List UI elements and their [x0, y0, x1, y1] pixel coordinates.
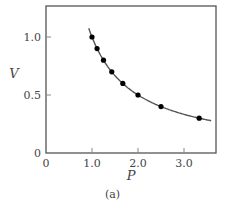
data-point: [101, 58, 106, 63]
data-point: [89, 34, 94, 39]
x-tick-label: 3.0: [175, 157, 193, 170]
data-point: [197, 116, 202, 121]
data-point: [135, 92, 140, 97]
data-point: [109, 69, 114, 74]
axis-ticks: [46, 37, 184, 153]
x-tick-label: 1.0: [83, 157, 101, 170]
plot-frame: [46, 6, 216, 153]
x-axis-label: P: [126, 168, 136, 183]
y-tick-label: 1.0: [24, 31, 42, 44]
fit-curve: [89, 28, 211, 120]
data-point: [94, 46, 99, 51]
data-point: [158, 104, 163, 109]
y-tick-label: 0: [34, 147, 41, 160]
chart-area: 01.02.03.000.51.0 P V: [0, 0, 225, 185]
y-axis-label: V: [9, 66, 20, 81]
y-tick-label: 0.5: [24, 89, 42, 102]
tick-labels: 01.02.03.000.51.0: [24, 31, 193, 170]
data-points: [89, 34, 201, 120]
data-point: [120, 81, 125, 86]
x-tick-label: 0: [43, 157, 50, 170]
figure-caption: (a): [0, 188, 225, 201]
